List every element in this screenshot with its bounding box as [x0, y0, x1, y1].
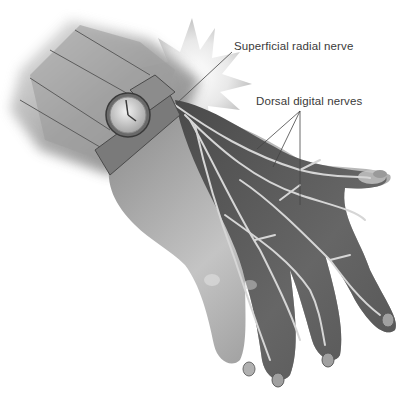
leader-dorsal-digital-1 — [257, 111, 300, 149]
label-superficial-radial-nerve: Superficial radial nerve — [234, 40, 353, 52]
hand — [109, 100, 396, 387]
hand-nerve-illustration: Superficial radial nerve Dorsal digital … — [0, 0, 413, 408]
illustration-canvas — [0, 0, 413, 408]
label-dorsal-digital-nerves: Dorsal digital nerves — [256, 95, 362, 107]
